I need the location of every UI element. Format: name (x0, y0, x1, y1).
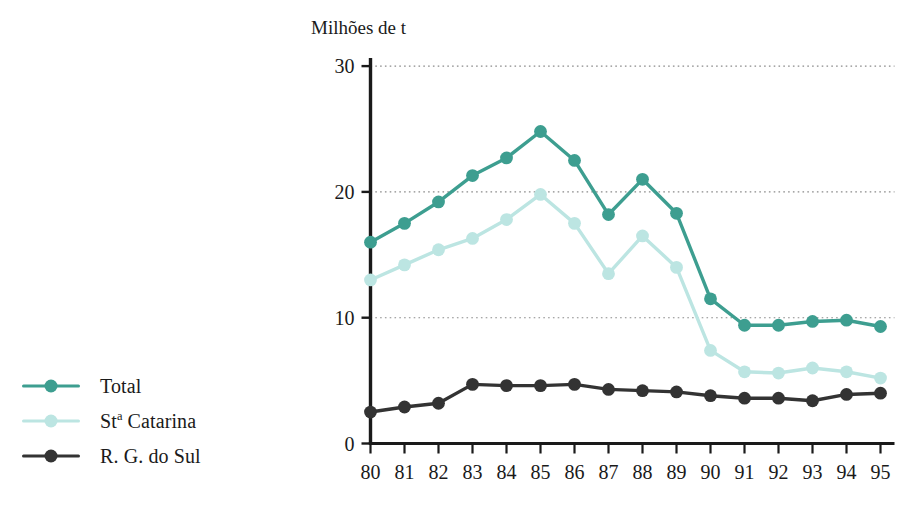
data-point (636, 173, 649, 186)
series-st-catarina (364, 188, 887, 384)
data-point (636, 230, 649, 243)
data-series-layer (364, 125, 887, 418)
data-point (840, 314, 853, 327)
chart-plot-area: Milhões de t 3020100 8081828384858687888… (0, 0, 919, 505)
data-point (534, 125, 547, 138)
data-point (738, 319, 751, 332)
data-point (500, 152, 513, 165)
data-point (568, 154, 581, 167)
data-point (398, 401, 411, 414)
data-point (432, 397, 445, 410)
data-point (568, 378, 581, 391)
data-point (466, 378, 479, 391)
y-axis-title: Milhões de t (311, 18, 406, 37)
data-point (432, 196, 445, 209)
data-point (364, 236, 377, 249)
data-point (398, 217, 411, 230)
data-point (874, 372, 887, 385)
data-point (568, 217, 581, 230)
chart-figure: Total Sta Catarina R. G. do Sul Milhões … (0, 0, 919, 505)
data-point (466, 232, 479, 245)
data-point (534, 188, 547, 201)
y-tick-label: 20 (313, 182, 355, 202)
chart-canvas (0, 0, 919, 505)
data-point (738, 365, 751, 378)
y-tick-label: 0 (313, 434, 355, 454)
y-tick-label: 10 (313, 308, 355, 328)
x-tick-label: 95 (861, 462, 901, 482)
data-point (636, 384, 649, 397)
data-point (806, 315, 819, 328)
data-point (364, 406, 377, 419)
data-point (874, 387, 887, 400)
data-point (806, 362, 819, 375)
data-point (670, 386, 683, 399)
data-point (704, 344, 717, 357)
data-point (704, 389, 717, 402)
series-r-g-do-sul (364, 378, 887, 418)
data-point (500, 213, 513, 226)
data-point (602, 383, 615, 396)
axis-lines (369, 58, 895, 443)
data-point (466, 169, 479, 182)
data-point (670, 207, 683, 220)
data-point (840, 365, 853, 378)
data-point (534, 379, 547, 392)
data-point (772, 392, 785, 405)
data-point (840, 388, 853, 401)
data-point (602, 208, 615, 221)
data-point (670, 261, 683, 274)
data-point (738, 392, 751, 405)
series-total (364, 125, 887, 333)
data-point (364, 274, 377, 287)
data-point (602, 267, 615, 280)
data-point (432, 243, 445, 256)
y-tick-label: 30 (313, 56, 355, 76)
data-point (500, 379, 513, 392)
data-point (704, 292, 717, 305)
data-point (772, 319, 785, 332)
data-point (772, 367, 785, 380)
data-point (806, 394, 819, 407)
data-point (874, 320, 887, 333)
data-point (398, 258, 411, 271)
